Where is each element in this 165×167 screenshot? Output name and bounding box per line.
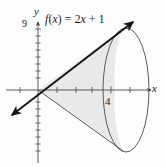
x-tick-label-4: 4 [105,96,111,107]
plus-sign: + [89,13,96,25]
function-equation-label: f(x) = 2x + 1 [45,14,105,26]
cone-shade-upper [38,29,123,90]
intercept-value: 1 [99,13,105,25]
y-tick-label-9: 9 [22,19,27,29]
equals-sign: = [65,13,72,25]
y-axis-label: y [34,6,39,17]
slope-variable: x [81,13,86,25]
solid-of-revolution-figure: y x 9 4 f(x) = 2x + 1 [0,0,165,167]
x-axis-label: x [152,83,157,94]
close-paren: ) [58,13,62,25]
